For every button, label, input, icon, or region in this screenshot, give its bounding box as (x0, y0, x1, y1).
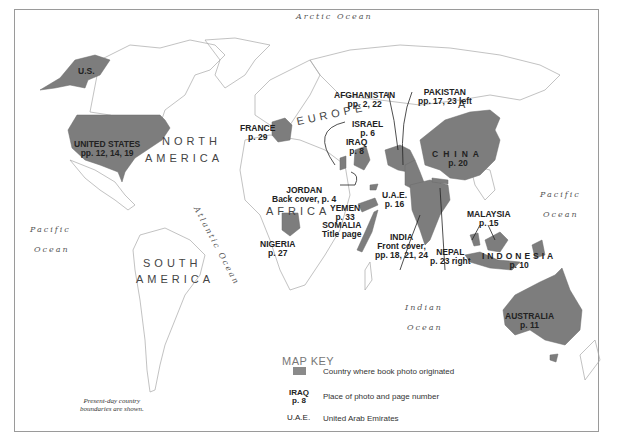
tasmania-shape (550, 354, 558, 362)
map-key-label-uae: United Arab Emirates (323, 414, 399, 423)
label-malaysia: MALAYSIAp. 15 (467, 210, 511, 228)
malaysia-borneo-shape (485, 232, 508, 252)
alaska-shape (40, 55, 110, 90)
label-iraq: IRAQp. 8 (346, 138, 367, 156)
pacific-ocean-east-label-1: Pacific (540, 190, 581, 199)
south-america-outline (133, 228, 205, 392)
label-nigeria: NIGERIAp. 27 (260, 240, 295, 258)
label-afghanistan: AFGHANISTANpp. 2, 22 (334, 91, 395, 109)
label-uae: U.A.E.p. 16 (382, 191, 407, 209)
map-key-label-place: Place of photo and page number (323, 392, 439, 401)
pacific-ocean-west-label-1: Pacific (30, 225, 71, 234)
map-key-title: MAP KEY (282, 355, 334, 367)
label-somalia: SOMALIATitle page (322, 221, 362, 239)
pacific-ocean-east-label-2: Ocean (543, 210, 579, 219)
north-america-label-2: AMERICA (145, 152, 223, 164)
greenland-outline (205, 38, 270, 88)
map-key-label-country: Country where book photo originated (323, 367, 454, 376)
label-pakistan: PAKISTANpp. 17, 23 left (418, 88, 472, 106)
jordan-arrow (340, 172, 357, 185)
north-america-label-1: NORTH (162, 135, 221, 147)
label-france: FRANCEp. 29 (240, 124, 275, 142)
africa-label: AFRICA (266, 205, 330, 217)
arctic-ocean-label: Arctic Ocean (296, 12, 373, 21)
map-key-symbol-iraq: IRAQp. 8 (289, 389, 309, 405)
map-key-gray-swatch (293, 367, 306, 375)
label-israel: ISRAELp. 6 (352, 120, 383, 138)
yemen-shape (358, 198, 378, 212)
label-indonesia: INDONESIAp. 10 (482, 252, 556, 270)
label-china: CHINAp. 20 (432, 150, 484, 168)
south-america-label-1: SOUTH (143, 257, 202, 269)
label-australia: AUSTRALIAp. 11 (505, 312, 554, 330)
label-nepal: NEPALp. 23 right (430, 248, 471, 266)
indian-ocean-label-2: Ocean (407, 323, 443, 332)
label-india: INDIAFront cover,pp. 18, 21, 24 (375, 233, 428, 260)
boundaries-note: Present-day countryboundaries are shown. (80, 397, 144, 413)
jordan-shape (340, 156, 346, 170)
pacific-ocean-west-label-2: Ocean (34, 245, 70, 254)
indian-ocean-label-1: Indian (405, 303, 443, 312)
canada-outline (90, 40, 225, 125)
label-jordan: JORDANBack cover, p. 4 (272, 186, 336, 204)
label-us-alaska: U.S. (78, 67, 95, 76)
map-key-symbol-uae: U.A.E. (287, 414, 310, 422)
uae-shape (370, 184, 378, 190)
south-america-label-2: AMERICA (136, 273, 214, 285)
label-united-states: UNITED STATESpp. 12, 14, 19 (74, 140, 140, 158)
australia-shape (503, 268, 582, 345)
